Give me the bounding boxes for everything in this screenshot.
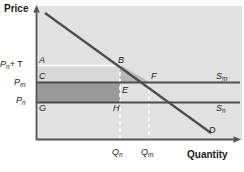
point-label-b: B	[118, 56, 124, 65]
curve-label-d: D	[209, 126, 216, 135]
curve-label-sn-subscript: n	[222, 107, 226, 114]
y-tick-pn-plus-t: Pn+ T	[0, 60, 23, 69]
shaded-region-cehg	[37, 83, 120, 102]
curve-label-sn: Sn	[216, 104, 226, 113]
y-axis-title: Price	[4, 4, 28, 14]
x-tick-qn-base: Q	[112, 147, 119, 157]
y-tick-pn-subscript: n	[22, 99, 26, 106]
point-label-h: H	[113, 104, 120, 113]
point-label-g: G	[39, 104, 46, 113]
point-label-e: E	[122, 86, 128, 95]
curve-label-sm: Sm	[216, 72, 227, 81]
point-label-a: A	[39, 56, 45, 65]
x-axis-title: Quantity	[187, 150, 228, 160]
point-label-f: F	[151, 72, 157, 81]
x-tick-qm-subscript: m	[148, 151, 153, 158]
curve-label-sm-subscript: m	[222, 75, 227, 82]
y-tick-pm: Pm	[14, 78, 25, 87]
y-tick-pn-plus-t-subscript: n	[6, 63, 10, 70]
price-quantity-tax-incidence-chart: Price Quantity Pn+ T Pm Pn Qn Qm Sm Sn D…	[0, 0, 244, 172]
shaded-region-abce	[37, 65, 120, 82]
y-tick-pm-subscript: m	[20, 81, 25, 88]
x-tick-qm: Qm	[141, 148, 153, 157]
x-tick-qn: Qn	[112, 148, 123, 157]
x-tick-qm-base: Q	[141, 147, 148, 157]
point-label-c: C	[39, 72, 46, 81]
y-tick-pn-plus-t-suffix: + T	[10, 59, 23, 69]
x-tick-qn-subscript: n	[119, 151, 123, 158]
y-tick-pn: Pn	[16, 96, 26, 105]
